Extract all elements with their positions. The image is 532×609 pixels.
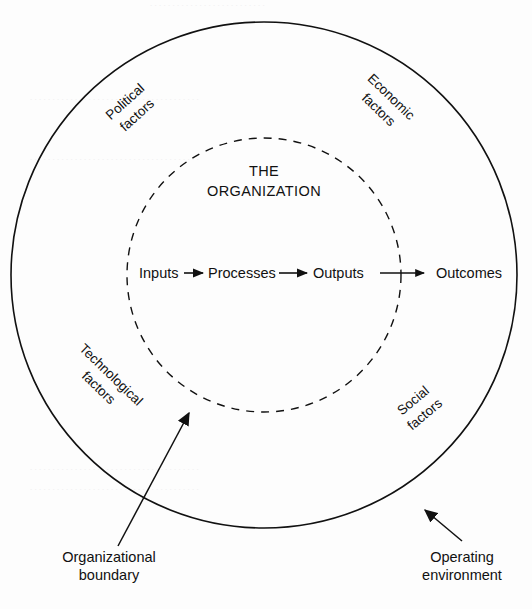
systems-diagram: . . . . . . . . . . . . . . . . . . . . … bbox=[0, 0, 532, 609]
svg-text:. . . . . . . . . . . . . . .: . . . . . . . . . . . . . . . . . . . . … bbox=[30, 462, 199, 472]
flow-node-outcomes: Outcomes bbox=[436, 265, 502, 281]
svg-text:. . . . . . . . . . . . . . .: . . . . . . . . . . . . . . . . . . . . … bbox=[30, 482, 199, 492]
callout-organizational-boundary-line1: Organizational bbox=[62, 549, 156, 565]
page-bleedthrough-texture: . . . . . . . . . . . . . . . . . . . . … bbox=[30, 0, 265, 492]
diagram-canvas: . . . . . . . . . . . . . . . . . . . . … bbox=[0, 0, 532, 609]
callout-operating-environment-line1: Operating bbox=[430, 549, 494, 565]
svg-text:. . . . . . . . . . . . . . .: . . . . . . . . . . . . . . . . . . . . … bbox=[150, 0, 265, 8]
organization-title-line1: THE bbox=[249, 163, 279, 179]
factor-label-social: Social factors bbox=[393, 382, 445, 433]
flow-node-processes: Processes bbox=[208, 265, 276, 281]
flow-node-outputs: Outputs bbox=[313, 265, 364, 281]
organization-title-line2: ORGANIZATION bbox=[207, 183, 321, 199]
callout-arrow-organizational-boundary bbox=[118, 413, 189, 546]
flow-node-inputs: Inputs bbox=[139, 265, 179, 281]
callout-arrow-operating-environment bbox=[425, 510, 462, 541]
factor-label-economic: Economic factors bbox=[352, 71, 418, 136]
factor-label-political: Political factors bbox=[103, 81, 160, 137]
callout-organizational-boundary-line2: boundary bbox=[79, 567, 140, 583]
factor-label-technological: Technological factors bbox=[64, 341, 146, 422]
callout-operating-environment-line2: environment bbox=[422, 567, 502, 583]
svg-text:. . . . . . . . . . . . . . .: . . . . . . . . . . . . . . . . . . . . … bbox=[30, 152, 199, 162]
